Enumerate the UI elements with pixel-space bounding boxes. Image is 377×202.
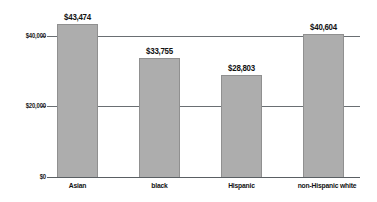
bars-layer: $43,474 $33,755 $28,803 $40,604 [0,0,377,177]
bar-group-black: $33,755 [139,0,180,177]
x-axis-label-non-hispanic-white: non-Hispanic white [287,181,366,190]
x-axis-line [47,177,360,178]
bar-non-hispanic-white[interactable] [303,34,344,177]
bar-hispanic[interactable] [221,75,262,177]
x-axis-label-asian: Asian [46,181,110,190]
bar-group-asian: $43,474 [57,0,98,177]
bar-group-non-hispanic-white: $40,604 [303,0,344,177]
bar-black[interactable] [139,58,180,177]
bar-asian[interactable] [57,24,98,177]
x-axis-label-black: black [128,181,192,190]
bar-group-hispanic: $28,803 [221,0,262,177]
bar-chart: $40,000 $20,000 $0 $43,474 $33,755 $28,8… [0,0,377,202]
bar-value-label: $28,803 [202,63,280,73]
bar-value-label: $40,604 [284,22,362,32]
bar-value-label: $43,474 [38,12,116,22]
bar-value-label: $33,755 [120,46,198,56]
x-axis-label-hispanic: Hispanic [210,181,274,190]
